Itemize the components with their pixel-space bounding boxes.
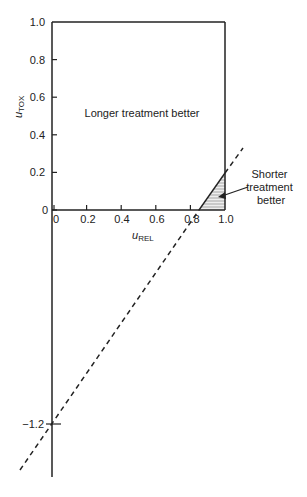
y-tick-label: 0.2 <box>30 166 45 178</box>
x-tick-label: 0.2 <box>80 213 95 225</box>
x-tick-label: 0 <box>53 213 59 225</box>
chart-canvas: 1.0 0.8 0.6 0.4 0.2 0 −1.2 0 0.2 0.4 0.6… <box>0 0 307 497</box>
threshold-line-dashed <box>20 210 199 470</box>
x-tick-label: 0.8 <box>184 213 199 225</box>
x-axis-label: uREL <box>132 229 154 243</box>
y-axis-label: uTOX <box>12 95 26 118</box>
x-tick-label: 0.6 <box>149 213 164 225</box>
y-tick-label: 1.0 <box>30 16 45 28</box>
annotation-shorter: Shorter treatment better <box>246 168 296 206</box>
y-tick-label: 0 <box>42 204 48 216</box>
x-tick-label: 1.0 <box>218 213 233 225</box>
y-ticks <box>46 60 61 424</box>
y-tick-label: 0.6 <box>30 91 45 103</box>
x-tick-label: 0.4 <box>114 213 129 225</box>
y-tick-label-neg: −1.2 <box>22 418 44 430</box>
annotation-longer: Longer treatment better <box>85 107 200 119</box>
y-tick-label: 0.8 <box>30 54 45 66</box>
y-tick-label: 0.4 <box>30 129 45 141</box>
threshold-line-dashed-upper <box>225 148 243 173</box>
